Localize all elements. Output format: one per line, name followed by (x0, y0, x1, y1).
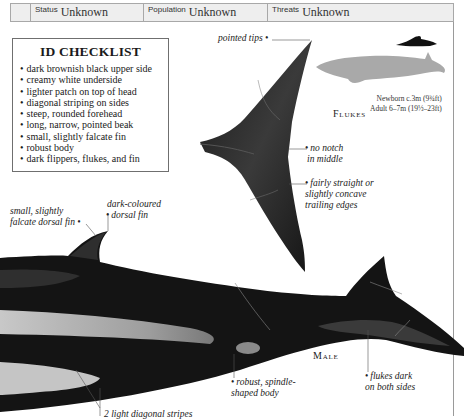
checklist-item: dark flippers, flukes, and fin (20, 153, 168, 164)
size-newborn: Newborn c.3m (9¾ft) (370, 94, 442, 104)
male-caption: Male (313, 350, 339, 361)
checklist-item: small, slightly falcate fin (20, 131, 168, 142)
checklist-list: dark brownish black upper side creamy wh… (13, 63, 168, 165)
annotation-flukes-dark-2: on both sides (365, 382, 415, 393)
checklist-item: diagonal striping on sides (20, 97, 168, 108)
checklist-item: dark brownish black upper side (20, 63, 168, 74)
whale-silhouette-icon (316, 52, 445, 83)
checklist-title: ID CHECKLIST (13, 44, 168, 60)
annotation-text: falcate dorsal fin (10, 217, 75, 227)
annotation-no-notch-2: in middle (307, 154, 343, 165)
annotation-small-dorsal-fin-2: falcate dorsal fin • (10, 217, 81, 228)
swimmer-silhouette-icon (396, 36, 437, 46)
annotation-flukes-dark: flukes dark (365, 371, 412, 382)
annotation-robust-body: robust, spindle- (231, 377, 296, 388)
id-checklist: ID CHECKLIST dark brownish black upper s… (12, 38, 169, 172)
annotation-pointed-tips: pointed tips • (218, 33, 268, 44)
annotation-trailing-edges-3: trailing edges (305, 200, 358, 211)
annotation-dark-dorsal-fin: dark-coloured (107, 199, 161, 210)
annotation-dark-dorsal-fin-2: dorsal fin (106, 210, 148, 221)
annotation-robust-body-2: shaped body (231, 388, 279, 399)
size-info: Newborn c.3m (9¾ft) Adult 6–7m (19½–23ft… (370, 94, 442, 114)
annotation-trailing-edges-2: slightly concave (305, 189, 366, 200)
checklist-item: robust body (20, 142, 168, 153)
annotation-small-dorsal-fin: small, slightly (10, 206, 63, 217)
flukes-caption: Flukes (333, 108, 366, 119)
checklist-item: creamy white underside (20, 74, 168, 85)
annotation-text: pointed tips (218, 33, 263, 43)
annotation-no-notch: no notch (305, 143, 343, 154)
checklist-item: lighter patch on top of head (20, 86, 168, 97)
flukes-drawing (200, 40, 312, 272)
size-adult: Adult 6–7m (19½–23ft) (370, 104, 442, 114)
checklist-item: long, narrow, pointed beak (20, 119, 168, 130)
annotation-stripes: 2 light diagonal stripes (104, 409, 192, 420)
annotation-trailing-edges: fairly straight or (305, 178, 374, 189)
checklist-item: steep, rounded forehead (20, 108, 168, 119)
